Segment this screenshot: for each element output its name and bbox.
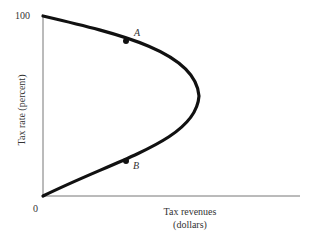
x-axis-label: Tax revenues (dollars) xyxy=(140,205,240,231)
point-a-marker xyxy=(123,38,129,44)
x-axis-label-line1: Tax revenues xyxy=(140,205,240,218)
x-axis-label-line2: (dollars) xyxy=(140,218,240,231)
point-a-label: A xyxy=(134,27,140,38)
origin-label: 0 xyxy=(33,203,38,214)
y-tick-100: 100 xyxy=(15,10,30,21)
laffer-curve xyxy=(43,16,199,196)
point-b-label: B xyxy=(133,160,139,171)
point-b-marker xyxy=(123,158,129,164)
y-axis-label: Tax rate (percent) xyxy=(16,75,27,146)
